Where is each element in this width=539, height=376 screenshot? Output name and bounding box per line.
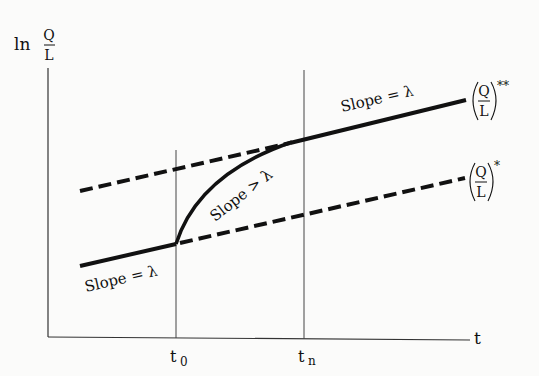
tick-t0-subscript: 0 xyxy=(180,355,188,369)
upper-label-denominator: L xyxy=(479,103,488,119)
y-axis-label-denominator: L xyxy=(44,47,53,63)
upper-curve-label: Q L ** xyxy=(473,79,509,120)
y-axis-label-numerator: Q xyxy=(43,27,54,43)
lower-trend-solid xyxy=(80,244,176,266)
lower-curve-label: Q L * xyxy=(470,159,500,201)
x-axis xyxy=(48,337,470,340)
lower-label-superscript: * xyxy=(494,159,500,173)
lower-slope-annotation: Slope = λ xyxy=(83,262,160,296)
upper-label-numerator: Q xyxy=(478,83,489,99)
upper-slope-annotation: Slope = λ xyxy=(339,82,416,116)
lower-label-denominator: L xyxy=(476,184,485,200)
growth-path-diagram: ln Q L t t 0 t n Slope = λ Slope > λ Slo… xyxy=(0,0,539,376)
upper-label-superscript: ** xyxy=(497,79,509,93)
y-axis-label-prefix: ln xyxy=(14,34,30,54)
transition-slope-annotation: Slope > λ xyxy=(206,165,276,225)
tick-t0: t xyxy=(170,347,177,366)
x-axis-label: t xyxy=(474,328,481,348)
tick-tn-subscript: n xyxy=(308,354,316,368)
lower-label-numerator: Q xyxy=(475,164,486,180)
tick-tn: t xyxy=(298,347,305,366)
